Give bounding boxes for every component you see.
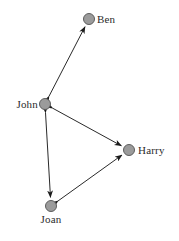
graph-node-harry[interactable] xyxy=(124,145,135,156)
nodes-layer xyxy=(40,14,135,212)
graph-node-ben[interactable] xyxy=(84,14,95,25)
node-label-harry: Harry xyxy=(138,145,165,156)
graph-node-joan[interactable] xyxy=(46,201,57,212)
edges-layer xyxy=(46,27,122,201)
graph-node-john[interactable] xyxy=(40,99,51,110)
node-label-joan: Joan xyxy=(41,214,62,225)
node-label-john: John xyxy=(16,99,38,110)
diagram-canvas: BenJohnHarryJoan xyxy=(0,0,179,241)
graph-edge xyxy=(53,108,122,146)
graph-edge xyxy=(46,113,51,198)
graph-edge xyxy=(49,27,85,97)
graph-edge xyxy=(58,155,122,201)
network-graph xyxy=(0,0,179,241)
node-label-ben: Ben xyxy=(97,14,115,25)
